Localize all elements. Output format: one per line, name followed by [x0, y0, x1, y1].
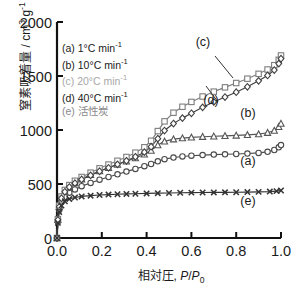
data-marker-square: [245, 76, 250, 81]
data-marker-circle: [211, 152, 216, 157]
legend-item-0: (a) 1°C min-1: [62, 38, 128, 55]
data-marker-triangle: [179, 135, 185, 141]
annotation-label-a: (a): [240, 154, 255, 168]
x-tick-label: 0.4: [137, 243, 157, 259]
legend: (a) 1°C min-1(b) 10°C min-1(c) 20°C min-…: [62, 38, 128, 118]
data-marker-triangle: [200, 133, 206, 139]
data-marker-triangle: [211, 133, 217, 139]
data-marker-circle: [106, 174, 111, 179]
legend-item-1: (b) 10°C min-1: [62, 55, 128, 72]
x-tick-label: 0.0: [47, 243, 67, 259]
data-marker-square: [171, 110, 176, 115]
plot-canvas: 05001000150020000.00.20.40.60.81.0(c)(d)…: [0, 0, 292, 288]
x-tick-label: 0.8: [226, 243, 246, 259]
x-tick-label: 1.0: [271, 243, 291, 259]
data-marker-square: [256, 71, 261, 76]
data-marker-circle: [88, 180, 93, 185]
data-marker-triangle: [233, 132, 239, 138]
data-marker-triangle: [278, 120, 284, 126]
data-marker-square: [162, 119, 167, 124]
data-marker-circle: [148, 161, 153, 166]
legend-item-exponent: -1: [121, 90, 128, 99]
data-marker-square: [155, 128, 160, 133]
data-marker-circle: [234, 151, 239, 156]
legend-item-label: (c) 20°C min: [62, 75, 120, 87]
annotation-label-d: (d): [203, 93, 218, 107]
data-marker-circle: [189, 153, 194, 158]
nitrogen-adsorption-isotherm-figure: 05001000150020000.00.20.40.60.81.0(c)(d)…: [0, 0, 292, 288]
x-tick-label: 0.2: [92, 243, 112, 259]
data-marker-circle: [142, 163, 147, 168]
data-marker-diamond: [245, 84, 251, 91]
annotation-leader-line: [215, 56, 233, 78]
data-marker-diamond: [256, 78, 262, 85]
annotation-label-c: (c): [196, 35, 211, 49]
legend-item-label: (b) 10°C min: [62, 58, 121, 70]
data-marker-triangle: [256, 131, 262, 137]
data-marker-diamond: [189, 110, 195, 117]
annotation-label-b: (b): [240, 106, 255, 120]
data-marker-triangle: [155, 142, 161, 148]
data-marker-triangle: [264, 130, 270, 136]
data-marker-circle: [256, 150, 261, 155]
data-marker-triangle: [161, 138, 167, 144]
data-marker-circle: [97, 177, 102, 182]
data-marker-circle: [162, 156, 167, 161]
legend-item-3: (d) 40°C min-1: [62, 88, 128, 105]
legend-item-exponent: -1: [121, 57, 128, 66]
data-marker-circle: [278, 142, 283, 147]
data-marker-circle: [222, 152, 227, 157]
data-marker-circle: [180, 154, 185, 159]
legend-item-exponent: -1: [115, 40, 122, 49]
data-marker-circle: [171, 155, 176, 160]
data-marker-circle: [79, 183, 84, 188]
data-marker-triangle: [188, 134, 194, 140]
legend-item-label: (a) 1°C min: [62, 42, 115, 54]
y-tick-label: 500: [28, 177, 52, 193]
data-marker-diamond: [180, 115, 186, 122]
data-marker-circle: [124, 169, 129, 174]
data-marker-square: [180, 104, 185, 109]
data-marker-diamond: [233, 89, 239, 96]
data-marker-triangle: [222, 133, 228, 139]
data-marker-diamond: [222, 94, 228, 101]
data-marker-circle: [133, 166, 138, 171]
legend-item-label: (d) 40°C min: [62, 92, 121, 104]
data-marker-triangle: [244, 132, 250, 138]
data-marker-square: [234, 80, 239, 85]
x-axis-label: 相対圧, P/P0: [57, 266, 285, 285]
data-marker-circle: [115, 172, 120, 177]
y-axis-label: 窒素吸着量 / cm3 g-1: [16, 0, 33, 147]
x-tick-label: 0.6: [181, 243, 201, 259]
legend-item-label: (e) 活性炭: [62, 105, 108, 117]
data-marker-square: [189, 99, 194, 104]
data-marker-circle: [155, 159, 160, 164]
data-marker-circle: [265, 149, 270, 154]
legend-item-4: (e) 活性炭: [62, 105, 128, 118]
data-marker-square: [222, 85, 227, 90]
legend-item-exponent: -1: [120, 73, 127, 82]
data-marker-triangle: [170, 136, 176, 142]
legend-item-2: (c) 20°C min-1: [62, 71, 128, 88]
annotation-label-e: (e): [240, 194, 255, 208]
data-marker-circle: [200, 152, 205, 157]
